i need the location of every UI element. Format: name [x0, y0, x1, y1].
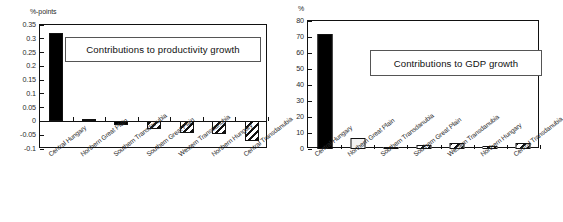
y-axis-tick-label: 80 [296, 16, 304, 25]
y-axis-tick-label: 0 [300, 144, 304, 153]
y-axis-tick-labels: 80706050403020100 [274, 20, 304, 148]
y-axis-unit-label: % [298, 5, 304, 12]
y-axis-tick-mark [308, 85, 312, 86]
y-axis-tick-mark [40, 80, 44, 81]
y-axis-tick-mark [40, 135, 44, 136]
y-axis-tick-label: 10 [296, 128, 304, 137]
chart-title-box: Contributions to productivity growth [65, 37, 261, 62]
y-axis-tick-label: 40 [296, 80, 304, 89]
y-axis-tick-label: 60 [296, 48, 304, 57]
y-axis-tick-mark [308, 149, 312, 150]
y-axis-unit-label: %-points [30, 8, 56, 15]
y-axis-tick-mark [308, 53, 312, 54]
x-axis-tick-mark [268, 117, 269, 121]
y-axis-tick-label: 0.2 [26, 61, 36, 70]
y-axis-tick-mark [308, 117, 312, 118]
y-axis-tick-mark [40, 38, 44, 39]
y-axis-tick-label: 0.15 [22, 75, 36, 84]
bar [317, 34, 332, 149]
y-axis-tick-label: 0.05 [22, 102, 36, 111]
y-axis-tick-label: 0.25 [22, 47, 36, 56]
chart-panel-productivity: %-points 0.350.30.250.20.150.10.050-0.05… [0, 0, 274, 222]
y-axis-tick-mark [40, 52, 44, 53]
y-axis-tick-mark [40, 93, 44, 94]
y-axis-tick-label: 0.35 [22, 20, 36, 29]
y-axis-tick-labels: 0.350.30.250.20.150.10.050-0.05-0.1 [0, 24, 36, 148]
y-axis-tick-label: 20 [296, 112, 304, 121]
y-axis-tick-label: 0 [32, 116, 36, 125]
chart-title-box: Contributions to GDP growth [370, 50, 542, 76]
y-axis-tick-label: -0.1 [24, 144, 36, 153]
y-axis-tick-label: 0.3 [26, 33, 36, 42]
y-axis-tick-mark [308, 21, 312, 22]
y-axis-tick-label: 30 [296, 96, 304, 105]
y-axis-tick-mark [308, 133, 312, 134]
y-axis-tick-mark [40, 66, 44, 67]
y-axis-tick-label: 70 [296, 32, 304, 41]
y-axis-tick-mark [40, 107, 44, 108]
y-axis-tick-mark [308, 69, 312, 70]
y-axis-tick-mark [40, 149, 44, 150]
y-axis-tick-mark [40, 121, 44, 122]
x-axis-tick-mark [540, 145, 541, 149]
y-axis-tick-label: -0.05 [20, 130, 36, 139]
y-axis-tick-label: 50 [296, 64, 304, 73]
y-axis-tick-mark [308, 37, 312, 38]
y-axis-tick-label: 0.1 [26, 88, 36, 97]
bar-slot [308, 21, 341, 147]
y-axis-tick-mark [308, 101, 312, 102]
y-axis-tick-mark [40, 25, 44, 26]
bar [49, 33, 63, 121]
chart-panel-gdp: % 80706050403020100 Contributions to GDP… [274, 0, 548, 222]
